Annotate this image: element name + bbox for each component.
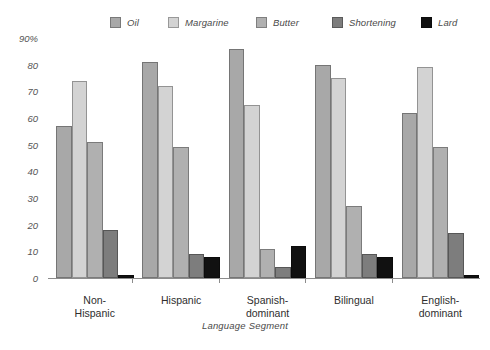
bar-oil[interactable] [142,62,158,278]
bar-butter[interactable] [346,206,362,278]
y-tick-label: 80 [27,59,38,70]
legend-label: Margarine [185,17,229,28]
bar-oil[interactable] [315,65,331,278]
x-axis-title: Language Segment [0,320,490,331]
y-tick-label: 40 [27,166,38,177]
bar-butter[interactable] [173,147,189,278]
bar-butter[interactable] [87,142,103,278]
legend-item-oil[interactable]: Oil [110,17,139,28]
y-tick-label: 70 [27,86,38,97]
x-tick [305,279,306,283]
bar-margarine[interactable] [72,81,88,278]
bar-lard[interactable] [291,246,307,278]
x-tick [132,279,133,283]
y-tick-label: 50 [27,139,38,150]
y-tick-label: 90% [19,33,38,44]
bar-margarine[interactable] [417,67,433,278]
y-tick-label: 0 [33,273,38,284]
x-category-label: Non- Hispanic [75,294,115,319]
bar-margarine[interactable] [158,86,174,278]
legend-swatch-lard-icon [421,17,432,28]
bar-group [56,38,134,278]
bar-oil[interactable] [229,49,245,278]
bar-shortening[interactable] [103,230,119,278]
legend-swatch-shortening-icon [332,17,343,28]
bar-lard[interactable] [204,257,220,278]
bar-butter[interactable] [433,147,449,278]
x-tick [219,279,220,283]
legend-label: Lard [438,17,457,28]
bar-shortening[interactable] [448,233,464,278]
bar-shortening[interactable] [362,254,378,278]
legend-item-butter[interactable]: Butter [256,17,299,28]
legend-label: Oil [127,17,139,28]
bar-lard[interactable] [377,257,393,278]
bar-butter[interactable] [260,249,276,278]
bar-oil[interactable] [56,126,72,278]
plot-area [48,38,480,278]
bar-group [142,38,220,278]
legend-swatch-oil-icon [110,17,121,28]
legend-swatch-margarine-icon [168,17,179,28]
x-category-label: Bilingual [334,294,374,307]
legend-label: Shortening [349,17,396,28]
y-tick-label: 10 [27,246,38,257]
chart-legend: OilMargarineButterShorteningLard [110,14,490,30]
x-category-label: Hispanic [161,294,201,307]
legend-swatch-butter-icon [256,17,267,28]
y-tick-label: 30 [27,193,38,204]
legend-item-lard[interactable]: Lard [421,17,457,28]
bar-group [229,38,307,278]
grouped-bar-chart: OilMargarineButterShorteningLard 90%8070… [0,0,490,350]
bar-group [402,38,480,278]
x-category-label: Spanish- dominant [246,294,289,319]
bar-group [315,38,393,278]
x-tick [392,279,393,283]
x-category-label: English- dominant [419,294,462,319]
bar-margarine[interactable] [244,105,260,278]
bar-shortening[interactable] [189,254,205,278]
y-tick-label: 60 [27,113,38,124]
bar-shortening[interactable] [275,267,291,278]
y-tick-label: 20 [27,219,38,230]
bar-oil[interactable] [402,113,418,278]
legend-item-margarine[interactable]: Margarine [168,17,229,28]
x-axis-baseline [48,278,480,279]
legend-item-shortening[interactable]: Shortening [332,17,396,28]
legend-label: Butter [273,17,299,28]
bar-margarine[interactable] [331,78,347,278]
y-axis-labels: 90%80706050403020100 [0,0,46,286]
